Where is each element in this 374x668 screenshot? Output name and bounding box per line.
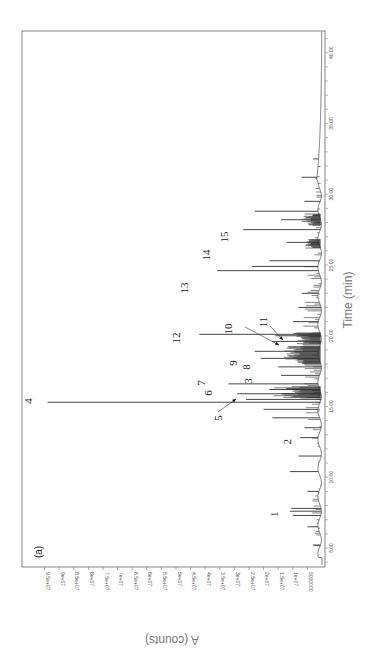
x-tick-label: 20.00 [328,329,334,342]
x-tick-label: 30.00 [328,188,334,201]
peak-label-9: 9 [227,360,239,366]
y-tick-label: 9.5e+07 [45,572,51,590]
y-tick-label: 5.5e+07 [162,572,168,590]
peak-label-3: 3 [242,378,254,384]
x-axis-title: Time (min) [341,272,355,329]
peak-label-12: 12 [170,333,182,344]
x-tick-label: 5.00 [328,543,334,553]
y-tick-label: 5e+07 [177,572,183,586]
y-tick-label: 1.5e+07 [279,572,285,590]
peak-label-6: 6 [202,390,214,396]
y-tick-label: 3e+07 [235,572,241,586]
peak-label-5: 5 [212,415,224,421]
y-tick-label: 4e+07 [206,572,212,586]
x-axis-ticks: 5.0010.0015.0020.0025.0030.0035.0040.00 [325,39,334,563]
peak-label-14: 14 [200,249,212,261]
x-tick-label: 10.00 [328,471,334,484]
plot-frame [22,31,325,567]
y-axis-title: A (counts) [145,633,199,647]
y-tick-label: 5000000 [308,572,314,592]
y-tick-label: 4.5e+07 [191,572,197,590]
y-axis-ticks: 50000001e+071.5e+072e+072.5e+073e+073.5e… [45,567,314,592]
x-tick-label: 25.00 [328,259,334,272]
x-tick-label: 35.00 [328,117,334,130]
peak-label-1: 1 [268,511,280,517]
y-tick-label: 3.5e+07 [220,572,226,590]
y-tick-label: 1e+07 [293,572,299,586]
peak-10-arrow [245,327,279,345]
peak-label-4: 4 [22,398,34,404]
peak-labels: 123456789101112131415 [22,231,293,517]
chromatogram-figure: 50000001e+071.5e+072e+072.5e+073e+073.5e… [0,0,374,668]
y-tick-label: 7e+07 [118,572,124,586]
y-tick-label: 9e+07 [60,572,66,586]
x-tick-label: 40.00 [328,46,334,59]
peak-label-7: 7 [195,380,207,386]
y-tick-label: 8.5e+07 [74,572,80,590]
panel-label: (a) [33,546,44,558]
y-tick-label: 6.5e+07 [133,572,139,590]
y-tick-label: 7.5e+07 [104,572,110,590]
y-tick-label: 2.5e+07 [250,572,256,590]
peak-label-15: 15 [218,231,230,243]
peak-label-10: 10 [222,323,234,335]
peak-label-8: 8 [240,364,252,370]
y-tick-label: 6e+07 [147,572,153,586]
y-tick-label: 8e+07 [89,572,95,586]
peak-label-13: 13 [178,282,190,294]
peak-label-11: 11 [257,317,269,328]
y-tick-label: 2e+07 [264,572,270,586]
peak-label-2: 2 [281,439,293,445]
x-tick-label: 15.00 [328,400,334,413]
chromatogram-trace [48,32,322,565]
